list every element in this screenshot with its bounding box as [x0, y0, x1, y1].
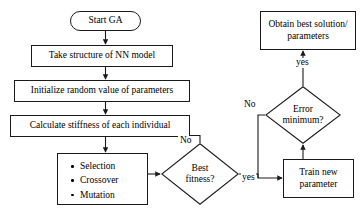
- node-start-ga-label: Start GA: [88, 15, 122, 26]
- node-obtain-best-solution: Obtain best solution/ parameters: [260, 11, 356, 50]
- node-error-minimum-decision: Error minimum?: [265, 86, 341, 144]
- node-take-structure-of-nn-model: Take structure of NN model: [31, 45, 173, 67]
- node-best-fitness-decision: Best fitness?: [161, 143, 239, 205]
- error-minimum-line2: minimum?: [282, 115, 323, 126]
- node-initialize-random-value-of-parameters: Initialize random value of parameters: [14, 80, 190, 102]
- best-fitness-line1: Best: [192, 163, 209, 174]
- best-fitness-text: Best fitness?: [161, 143, 239, 205]
- flowchart-diagram: Start GA Take structure of NN model Init…: [0, 0, 363, 215]
- node-initialize-random-label: Initialize random value of parameters: [31, 85, 173, 96]
- obtain-best-line2: parameters: [287, 31, 329, 42]
- best-fitness-line2: fitness?: [185, 174, 214, 185]
- node-start-ga: Start GA: [70, 11, 141, 31]
- node-train-new-parameter: Train new parameter: [283, 159, 354, 198]
- list-item: Mutation: [80, 188, 147, 202]
- node-genetic-operators: Selection Crossover Mutation: [57, 153, 148, 205]
- node-take-structure-label: Take structure of NN model: [49, 50, 155, 61]
- list-item: Selection: [80, 159, 147, 173]
- edge-label-best-fitness-yes: yes: [241, 173, 256, 183]
- edge-label-best-fitness-no: No: [178, 136, 194, 146]
- obtain-best-line1: Obtain best solution/: [268, 19, 347, 30]
- train-new-line2: parameter: [300, 179, 338, 190]
- edge-label-error-minimum-no: No: [243, 100, 257, 110]
- list-item: Crossover: [80, 173, 147, 187]
- error-minimum-line1: Error: [293, 104, 313, 115]
- edge-label-error-minimum-yes: yes: [295, 58, 310, 68]
- edge-error-minimum-no: [258, 115, 265, 178]
- node-calculate-stiffness-label: Calculate stiffness of each individual: [30, 120, 171, 131]
- genetic-operators-list: Selection Crossover Mutation: [58, 159, 147, 202]
- error-minimum-text: Error minimum?: [265, 86, 341, 144]
- train-new-line1: Train new: [299, 167, 337, 178]
- node-calculate-stiffness-of-each-individual: Calculate stiffness of each individual: [10, 115, 190, 137]
